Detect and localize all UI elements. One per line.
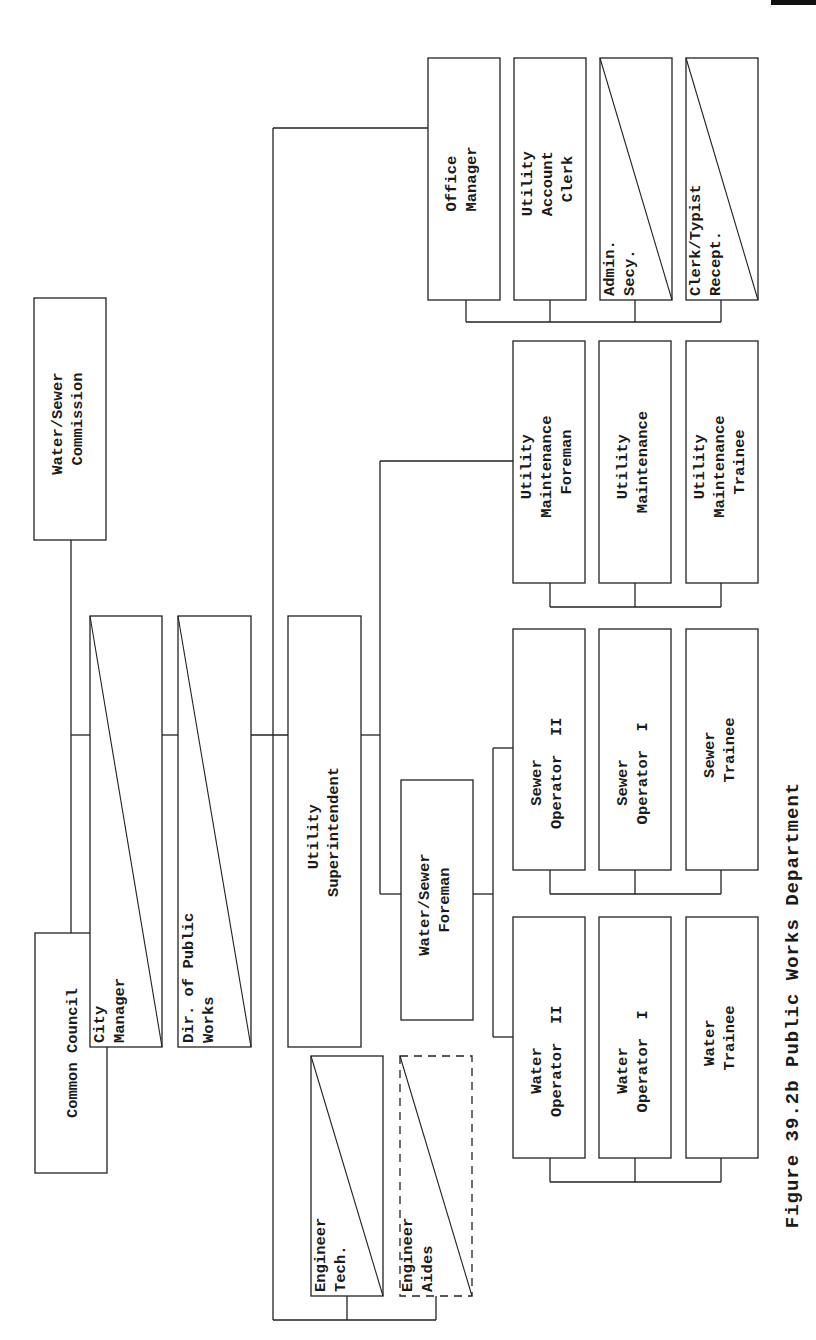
org-chart: Water/Sewer Commission Common Council Ci… <box>0 0 816 1340</box>
node-city-manager: City Manager <box>90 616 162 1047</box>
node-engineer-tech: Engineer Tech. <box>311 1056 383 1296</box>
node-dir-public-works: Dir. of Public Works <box>178 616 251 1047</box>
node-engineer-aides: Engineer Aides <box>399 1056 472 1296</box>
node-water-operator-ii: Water Operator II <box>513 917 585 1158</box>
node-sewer-trainee: Sewer Trainee <box>686 629 758 870</box>
node-water-trainee: Water Trainee <box>686 917 758 1158</box>
node-utility-account-clerk: Utility Account Clerk <box>514 58 586 300</box>
node-utility-maintenance: Utility Maintenance <box>599 341 671 583</box>
node-water-sewer-commission: Water/Sewer Commission <box>34 298 106 540</box>
svg-text:Common Council: Common Council <box>64 988 82 1118</box>
node-admin-secy: Admin. Secy. <box>600 58 672 300</box>
node-office-manager: Office Manager <box>428 58 500 300</box>
node-water-operator-i: Water Operator I <box>599 917 671 1158</box>
node-utility-maintenance-trainee: Utility Maintenance Trainee <box>686 341 758 583</box>
node-sewer-operator-i: Sewer Operator I <box>599 629 671 870</box>
figure-caption: Figure 39.2b Public Works Department <box>782 782 804 1228</box>
node-clerk-typist-recept: Clerk/Typist Recept. <box>686 58 758 300</box>
node-utility-superintendent: Utility Superintendent <box>288 616 361 1047</box>
node-utility-maintenance-foreman: Utility Maintenance Foreman <box>513 341 585 583</box>
node-water-sewer-foreman: Water/Sewer Foreman <box>401 780 473 1020</box>
page-corner-mark <box>771 0 816 5</box>
node-sewer-operator-ii: Sewer Operator II <box>513 629 585 870</box>
